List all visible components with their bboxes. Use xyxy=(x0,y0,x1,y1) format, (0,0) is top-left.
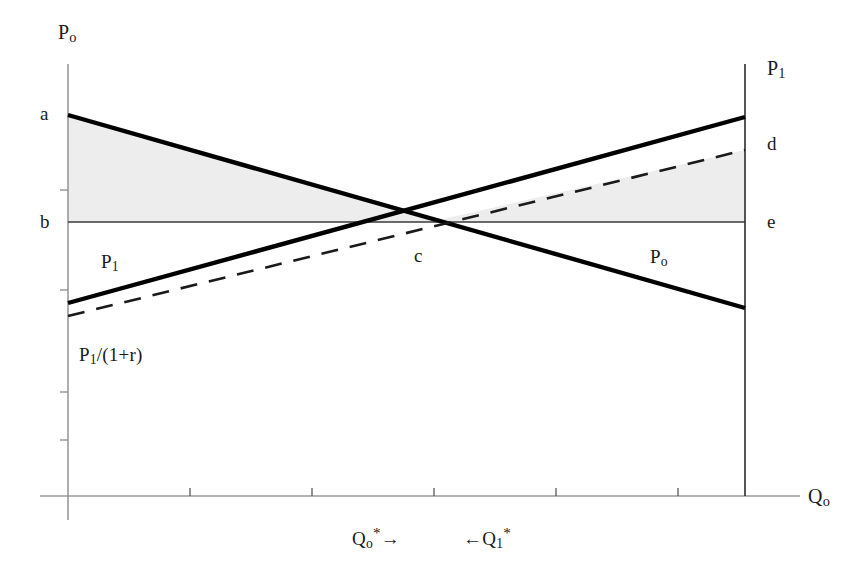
y-axis-ticks xyxy=(60,190,68,440)
x-axis-title: Qo xyxy=(808,486,830,506)
point-label-a: a xyxy=(40,104,49,123)
chart-plot-area xyxy=(0,0,862,583)
point-label-e: e xyxy=(767,212,776,231)
right-axis-title: P1 xyxy=(767,58,786,78)
x-axis-ticks xyxy=(190,488,678,496)
footnote-q0-star: Qo*→ xyxy=(352,529,400,548)
point-label-c: c xyxy=(414,246,423,265)
y-axis-title: Po xyxy=(58,22,77,42)
curve-label-p1: P1 xyxy=(101,252,119,271)
point-label-b: b xyxy=(40,212,50,231)
curve-label-p0: Po xyxy=(650,247,668,266)
point-label-d: d xyxy=(767,134,777,153)
footnote-q1-star: ←Q1* xyxy=(463,529,511,548)
curve-label-p1-discounted: P1/(1+r) xyxy=(79,345,143,364)
chart-figure: Po P1 Qo a b c d e P1 Po P1/(1+r) Qo*→ ←… xyxy=(0,0,862,583)
